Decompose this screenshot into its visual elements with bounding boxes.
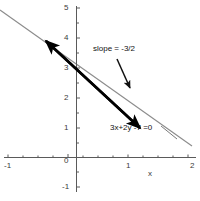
line-segment-double-arrow	[46, 41, 140, 128]
slope-annotation-label: slope = -3/2	[93, 45, 135, 53]
x-axis-label: x	[148, 170, 152, 178]
slope-pointer-arrow	[117, 59, 130, 88]
x-tick-label-2: 2	[190, 162, 194, 170]
y-tick-label-4: 4	[64, 34, 68, 42]
x-axis-ticks	[8, 154, 188, 158]
y-axis-ticks	[77, 8, 81, 187]
x-tick-label-minus-1: -1	[4, 162, 11, 170]
graph-figure: 5 4 3 2 1 0 -1 -1 1 2 x slope = -3/2 3x+…	[0, 0, 200, 201]
x-axis	[4, 154, 196, 158]
equation-annotation-label: 3x+2y -7 =0	[110, 124, 152, 132]
plot-canvas	[0, 0, 200, 201]
y-tick-label-3: 3	[64, 64, 68, 72]
equation-pointer-arrow	[161, 126, 177, 139]
y-tick-label-minus-1: -1	[62, 183, 69, 191]
y-axis	[77, 6, 81, 192]
y-tick-label-2: 2	[64, 94, 68, 102]
y-tick-label-5: 5	[64, 4, 68, 12]
y-tick-label-1: 1	[64, 124, 68, 132]
reference-line-gray	[0, 10, 192, 146]
y-tick-label-0: 0	[64, 157, 68, 165]
x-tick-label-1: 1	[126, 162, 130, 170]
